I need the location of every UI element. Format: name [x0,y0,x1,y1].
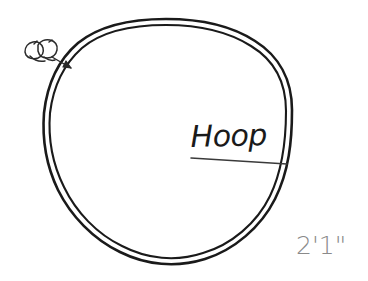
dimension-label: 2'1" [296,233,346,258]
sketch-canvas: Hoop 2'1" [0,0,368,281]
hoop-label: Hoop [190,120,267,152]
hoop-leader-line [191,158,287,164]
clip-detail-sketch [25,40,57,62]
